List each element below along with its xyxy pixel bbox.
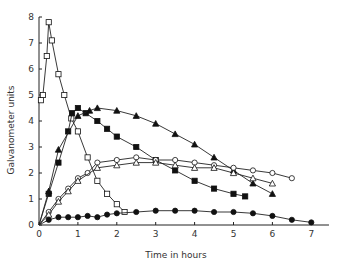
square-marker [75,105,80,110]
axes: 01234567012345678 [28,12,329,239]
square-marker [56,72,61,77]
triangle-marker [94,105,100,111]
y-tick-label: 4 [28,116,34,126]
square-marker [192,178,197,183]
y-tick-label: 7 [28,38,34,48]
circle-marker [134,209,139,214]
line-chart: 01234567012345678 Time in hours Galvanom… [0,0,346,265]
y-axis-label: Galvanometer units [6,85,16,174]
x-tick-label: 1 [75,229,81,239]
series-line [39,163,272,225]
y-tick-label: 6 [28,64,34,74]
triangle-marker [75,113,81,119]
circle-marker [46,217,51,222]
triangle-marker [192,141,198,147]
square-marker [95,118,100,123]
triangle-marker [211,154,217,160]
x-axis-label: Time in hours [144,250,207,260]
circle-marker [192,208,197,213]
series-line [41,22,125,212]
square-marker [134,144,139,149]
triangle-marker [269,191,275,197]
square-marker [173,168,178,173]
plot-area [38,20,314,225]
circle-marker [309,220,314,225]
square-marker [231,191,236,196]
x-tick-label: 5 [231,229,237,239]
square-marker [114,202,119,207]
y-tick-label: 1 [28,194,34,204]
square-marker [44,53,49,58]
y-tick-label: 3 [28,142,34,152]
square-marker [95,178,100,183]
circle-marker [270,170,275,175]
x-tick-label: 0 [36,229,42,239]
square-marker [114,134,119,139]
circle-marker [75,215,80,220]
circle-marker [250,168,255,173]
x-tick-label: 4 [192,229,198,239]
square-marker [38,98,43,103]
y-tick-label: 0 [28,220,34,230]
circle-marker [153,208,158,213]
square-marker [75,129,80,134]
circle-marker [250,211,255,216]
square-marker [104,126,109,131]
series-triangle-open [39,160,276,226]
square-marker [49,38,54,43]
circle-marker [173,208,178,213]
square-marker [62,92,67,97]
circle-marker [270,213,275,218]
y-tick-label: 5 [28,90,34,100]
circle-marker [211,209,216,214]
square-marker [69,111,74,116]
square-marker [122,209,127,214]
square-marker [46,20,51,25]
x-tick-label: 6 [270,229,276,239]
square-marker [56,160,61,165]
circle-marker [114,211,119,216]
triangle-marker [55,147,61,153]
x-tick-label: 3 [153,229,159,239]
circle-marker [66,215,71,220]
y-tick-label: 8 [28,12,34,22]
square-marker [243,194,248,199]
triangle-marker [153,121,159,127]
circle-marker [85,213,90,218]
circle-marker [231,209,236,214]
triangle-marker [172,131,178,137]
square-marker [211,186,216,191]
circle-marker [56,215,61,220]
y-tick-label: 2 [28,168,34,178]
circle-marker [104,212,109,217]
square-marker [85,155,90,160]
circle-marker [289,217,294,222]
x-tick-label: 7 [308,229,314,239]
square-marker [40,92,45,97]
circle-marker [289,176,294,181]
circle-marker [95,215,100,220]
x-tick-label: 2 [114,229,120,239]
square-marker [104,191,109,196]
